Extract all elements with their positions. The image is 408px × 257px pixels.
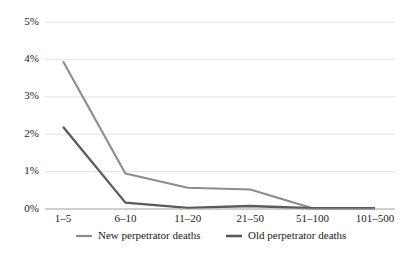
chart-canvas: 0%1%2%3%4%5% 1–56–1011–2021–5051–100101–… xyxy=(0,0,408,257)
y-axis-label-3%: 3% xyxy=(24,89,39,101)
y-axis-label-1%: 1% xyxy=(24,164,39,176)
legend-label-0: New perpetrator deaths xyxy=(98,229,201,241)
x-axis-label-5: 101–500 xyxy=(356,212,395,224)
x-axis-label-3: 21–50 xyxy=(236,212,264,224)
x-axis-label-4: 51–100 xyxy=(296,212,330,224)
y-axis-label-2%: 2% xyxy=(24,127,39,139)
y-axis-label-0%: 0% xyxy=(24,202,39,214)
legend-label-1: Old perpetrator deaths xyxy=(248,229,346,241)
y-axis-label-5%: 5% xyxy=(24,15,39,27)
x-axis-label-1: 6–10 xyxy=(114,212,137,224)
x-axis-label-2: 11–20 xyxy=(174,212,202,224)
x-axis-label-0: 1–5 xyxy=(55,212,72,224)
y-axis-label-4%: 4% xyxy=(24,52,39,64)
line-chart: 0%1%2%3%4%5% 1–56–1011–2021–5051–100101–… xyxy=(0,0,408,257)
